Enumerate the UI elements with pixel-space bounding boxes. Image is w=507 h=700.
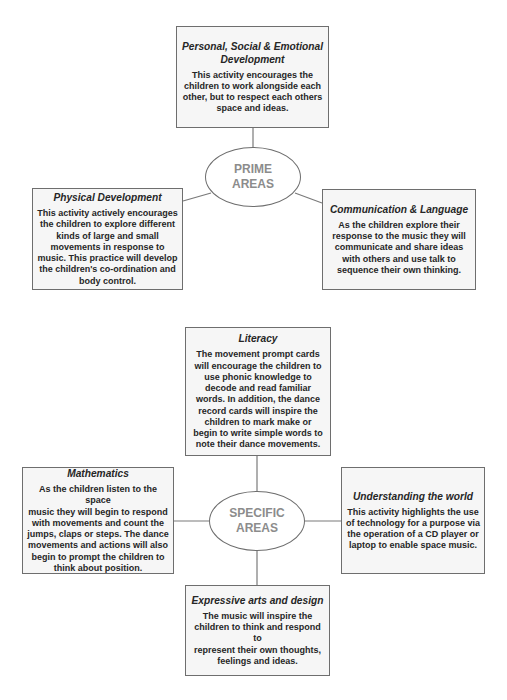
box-title: Personal, Social & Emotional Development xyxy=(182,40,323,66)
connector-prime-to-physical xyxy=(183,193,211,201)
expressive-arts-box: Expressive arts and design The music wil… xyxy=(185,585,330,676)
box-body: This activity highlights the use of tech… xyxy=(346,507,480,552)
box-title: Mathematics xyxy=(67,467,129,480)
communication-language-box: Communication & Language As the children… xyxy=(322,189,476,290)
specific-areas-hub: SPECIFIC AREAS xyxy=(209,491,305,551)
psed-box: Personal, Social & Emotional Development… xyxy=(176,26,329,128)
connector-prime-to-communication xyxy=(295,193,322,203)
prime-areas-hub: PRIME AREAS xyxy=(205,147,301,207)
box-body: The music will inspire the children to t… xyxy=(190,611,325,667)
box-title: Understanding the world xyxy=(353,490,473,503)
box-body: As the children explore their response t… xyxy=(332,220,466,276)
understanding-world-box: Understanding the world This activity hi… xyxy=(341,467,485,574)
box-body: This activity actively encourages the ch… xyxy=(37,208,178,287)
box-title: Literacy xyxy=(238,332,277,345)
box-title: Communication & Language xyxy=(330,203,468,216)
box-body: The movement prompt cards will encourage… xyxy=(193,349,323,450)
box-body: As the children listen to the space musi… xyxy=(27,484,169,574)
physical-development-box: Physical Development This activity activ… xyxy=(32,188,183,290)
box-title: Physical Development xyxy=(53,191,161,204)
box-title: Expressive arts and design xyxy=(192,594,324,607)
mathematics-box: Mathematics As the children listen to th… xyxy=(22,467,174,574)
box-body: This activity encourages the children to… xyxy=(183,70,323,115)
hub-label: SPECIFIC AREAS xyxy=(229,506,284,536)
hub-label: PRIME AREAS xyxy=(232,162,274,192)
literacy-box: Literacy The movement prompt cards will … xyxy=(185,327,331,456)
